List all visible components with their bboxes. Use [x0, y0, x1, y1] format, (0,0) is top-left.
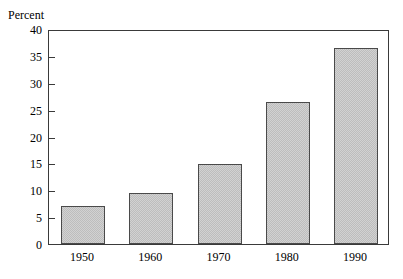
y-axis-tick-label: 35 [2, 51, 42, 63]
x-axis-tick-label: 1980 [257, 251, 317, 263]
bar [198, 164, 242, 244]
bar-chart: Percent 0510152025303540 195019601970198… [0, 0, 403, 279]
bar [334, 48, 378, 244]
y-axis-tick [49, 111, 55, 112]
x-axis-tick-label: 1950 [52, 251, 112, 263]
bar [61, 206, 105, 244]
y-axis-tick-label: 5 [2, 212, 42, 224]
y-axis-tick [49, 164, 55, 165]
y-axis-title: Percent [8, 9, 44, 22]
y-axis-tick-label: 25 [2, 105, 42, 117]
y-axis-tick [49, 191, 55, 192]
bar [266, 102, 310, 244]
y-axis-tick [49, 218, 55, 219]
y-axis-tick [49, 138, 55, 139]
y-axis-tick [49, 84, 55, 85]
y-axis-tick [49, 57, 55, 58]
x-axis-tick-label: 1970 [189, 251, 249, 263]
x-axis-tick-label: 1960 [120, 251, 180, 263]
plot-area [48, 30, 389, 245]
y-axis-tick-label: 10 [2, 185, 42, 197]
x-axis-tick-label: 1990 [325, 251, 385, 263]
y-axis-tick-label: 20 [2, 132, 42, 144]
y-axis-tick-label: 15 [2, 158, 42, 170]
bar [129, 193, 173, 244]
y-axis-tick-label: 30 [2, 78, 42, 90]
y-axis-tick [49, 30, 55, 31]
y-axis-tick-label: 40 [2, 24, 42, 36]
y-axis-tick-label: 0 [2, 239, 42, 251]
